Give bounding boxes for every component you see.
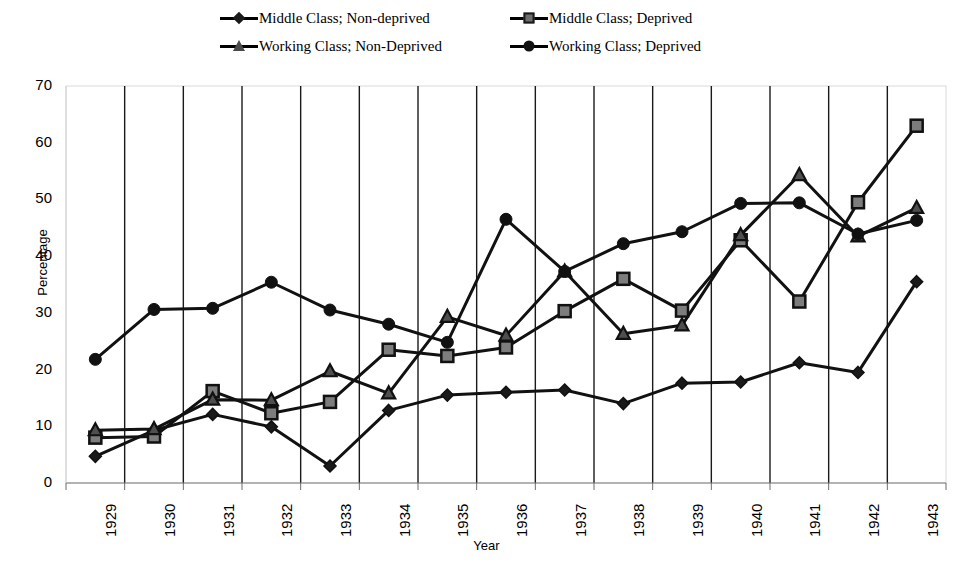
x-axis-tick-label: 1937: [572, 504, 589, 537]
data-point-circle: [793, 197, 805, 209]
y-axis-title: Percentage: [35, 203, 50, 323]
data-point-circle: [148, 303, 160, 315]
x-axis-tick-label: 1934: [396, 504, 413, 537]
data-point-diamond: [500, 386, 512, 398]
data-point-circle: [617, 238, 629, 250]
x-axis-tick-label: 1935: [454, 504, 471, 537]
line-chart: Middle Class; Non-deprived Middle Class;…: [0, 0, 973, 566]
data-point-circle: [441, 336, 453, 348]
data-point-square: [500, 341, 512, 353]
y-axis-tick-label: 60: [16, 133, 52, 150]
x-axis-tick-label: 1932: [278, 504, 295, 537]
data-point-circle: [383, 318, 395, 330]
x-axis-tick-label: 1936: [513, 504, 530, 537]
plot-svg: [0, 0, 973, 566]
data-point-diamond: [559, 384, 571, 396]
data-point-diamond: [89, 450, 101, 462]
x-axis-tick-label: 1939: [689, 504, 706, 537]
data-point-circle: [324, 304, 336, 316]
data-point-square: [383, 344, 395, 356]
data-point-square: [265, 407, 277, 419]
data-point-triangle: [910, 201, 923, 213]
y-axis-tick-label: 10: [16, 416, 52, 433]
data-point-triangle: [441, 310, 454, 322]
data-point-circle: [852, 228, 864, 240]
data-point-diamond: [441, 389, 453, 401]
data-point-square: [911, 120, 923, 132]
data-point-circle: [207, 302, 219, 314]
data-point-square: [324, 396, 336, 408]
data-point-triangle: [324, 364, 337, 376]
data-point-triangle: [793, 168, 806, 180]
x-axis-tick-label: 1943: [924, 504, 941, 537]
data-point-square: [793, 296, 805, 308]
data-point-square: [617, 273, 629, 285]
data-point-circle: [559, 265, 571, 277]
data-point-square: [559, 305, 571, 317]
data-point-diamond: [207, 408, 219, 420]
data-point-diamond: [735, 376, 747, 388]
data-point-diamond: [676, 377, 688, 389]
data-point-circle: [265, 276, 277, 288]
x-axis-tick-label: 1931: [220, 504, 237, 537]
plot-area: 706050403020100 192919301931193219331934…: [0, 0, 973, 566]
x-axis-tick-label: 1930: [161, 504, 178, 537]
x-axis-title: Year: [0, 538, 973, 553]
x-axis-tick-label: 1940: [748, 504, 765, 537]
plot-frame: [66, 86, 946, 483]
data-point-square: [441, 350, 453, 362]
y-axis-tick-label: 70: [16, 76, 52, 93]
x-axis-tick-label: 1929: [102, 504, 119, 537]
y-axis-tick-label: 0: [16, 473, 52, 490]
x-axis-tick-label: 1938: [630, 504, 647, 537]
data-point-diamond: [793, 357, 805, 369]
data-point-circle: [676, 226, 688, 238]
data-point-diamond: [617, 398, 629, 410]
data-point-square: [676, 305, 688, 317]
x-axis-tick-label: 1933: [337, 504, 354, 537]
data-point-square: [852, 196, 864, 208]
y-axis-tick-label: 20: [16, 360, 52, 377]
data-point-circle: [735, 197, 747, 209]
data-point-circle: [500, 213, 512, 225]
data-point-circle: [911, 214, 923, 226]
x-axis-tick-label: 1941: [806, 504, 823, 537]
data-point-circle: [89, 353, 101, 365]
x-axis-tick-label: 1942: [865, 504, 882, 537]
